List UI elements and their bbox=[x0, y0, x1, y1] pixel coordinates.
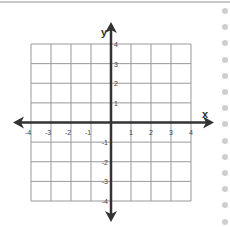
x-axis-label: x bbox=[202, 108, 209, 120]
y-tick-label: -3 bbox=[102, 178, 108, 185]
indicator-dot bbox=[222, 170, 228, 176]
y-axis-label: y bbox=[101, 26, 108, 38]
x-tick-label: 3 bbox=[169, 129, 173, 136]
x-tick-label: 1 bbox=[129, 129, 133, 136]
y-tick-label: 3 bbox=[114, 61, 118, 68]
x-tick-label: 2 bbox=[149, 129, 153, 136]
x-tick-label: -3 bbox=[45, 129, 51, 136]
y-tick-label: -4 bbox=[102, 198, 108, 205]
indicator-dot bbox=[222, 219, 228, 225]
y-tick-label: -1 bbox=[102, 139, 108, 146]
y-tick-label: 4 bbox=[114, 41, 118, 48]
y-tick-label: 1 bbox=[114, 100, 118, 107]
x-tick-label: -1 bbox=[85, 129, 91, 136]
indicator-dot bbox=[222, 138, 228, 144]
indicator-dot bbox=[222, 8, 228, 14]
x-tick-label: -4 bbox=[25, 129, 31, 136]
y-tick-label: -2 bbox=[102, 159, 108, 166]
indicator-dot bbox=[222, 73, 228, 79]
x-tick-label: 4 bbox=[189, 129, 193, 136]
x-tick-label: -2 bbox=[65, 129, 71, 136]
y-tick-label: 2 bbox=[114, 80, 118, 87]
indicator-dot bbox=[222, 57, 228, 63]
indicator-dot bbox=[222, 89, 228, 95]
indicator-dot bbox=[222, 154, 228, 160]
coordinate-plane: xy-4-3-2-112344321-1-2-3-4 bbox=[0, 0, 230, 227]
